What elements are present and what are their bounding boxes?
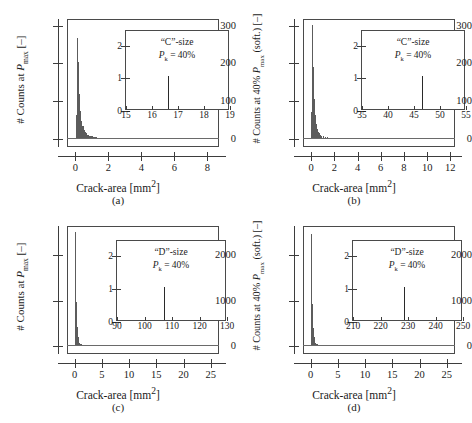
panel-c-x-tick xyxy=(102,359,103,368)
panel-a-y-tick xyxy=(53,26,63,27)
panel-b-inset-y-tick-label: 2 xyxy=(353,42,358,51)
panel-c-inset-x-tick-label: 100 xyxy=(137,322,151,331)
panel-b-inset-x-tick-label: 35 xyxy=(357,111,367,120)
panel-c-y-tick-label: 1000 xyxy=(187,296,236,306)
panel-c-x-tick-label: 25 xyxy=(206,370,217,380)
panel-d-inset-x-tick-label: 210 xyxy=(346,322,360,331)
panel-d-inset-x-tick-label: 240 xyxy=(428,322,442,331)
panel-b-x-axis-label: Crack-area [mm2] xyxy=(236,178,472,194)
panel-b-y-tick xyxy=(289,63,299,64)
panel-a-x-tick xyxy=(141,152,142,161)
panel-d-x-tick xyxy=(311,359,312,368)
panel-c-x-axis-label: Crack-area [mm2] xyxy=(0,385,236,401)
panel-a-caption: (a) xyxy=(0,194,236,206)
panel-a-y-tick-label: 200 xyxy=(187,58,236,68)
panel-d-x-tick xyxy=(447,359,448,368)
panel-b-inset-y-tick xyxy=(357,78,366,79)
panel-c-inset-y-tick xyxy=(112,256,121,257)
panel-b-x-tick-label: 6 xyxy=(378,163,383,173)
panel-b-x-tick-label: 0 xyxy=(308,163,313,173)
panel-a-y-tick xyxy=(53,63,63,64)
panel-b-x-tick-label: 8 xyxy=(401,163,406,173)
panel-d-y-tick xyxy=(289,301,299,302)
panel-a-inset-x-tick-label: 19 xyxy=(225,111,235,120)
panel-c-y-tick xyxy=(53,346,63,347)
panel-d-inset-x-tick-label: 250 xyxy=(456,322,470,331)
panel-c-inset-x-tick-label: 110 xyxy=(165,322,179,331)
panel-c-inset-y-tick xyxy=(112,289,121,290)
panel-a-inset-y-tick-label: 1 xyxy=(117,74,122,83)
panel-b-x-tick-label: 4 xyxy=(355,163,360,173)
panel-a-x-tick-label: 2 xyxy=(106,163,111,173)
panel-c-x-tick xyxy=(211,359,212,368)
panel-a-inset-x-tick-label: 18 xyxy=(199,111,209,120)
panel-b-x-tick-label: 10 xyxy=(422,163,433,173)
panel-d-x-tick-label: 0 xyxy=(308,370,313,380)
panel-b-inset-x-tick-label: 45 xyxy=(409,111,419,120)
panel-d-inset-x-tick-label: 220 xyxy=(373,322,387,331)
panel-a-y-tick xyxy=(53,101,63,102)
panel-d-y-axis xyxy=(294,226,295,354)
panel-b-inset-y-tick-label: 1 xyxy=(353,74,358,83)
panel-b-y-tick-label: 300 xyxy=(423,21,472,31)
panel-b-x-tick xyxy=(427,152,428,161)
panel-c-y-axis-label: # Counts at Pmax [–] xyxy=(14,212,29,362)
panel-a-inset-y-tick-label: 2 xyxy=(117,42,122,51)
panel-c-inset-y-tick-label: 2 xyxy=(108,252,113,261)
panel-b-y-tick-label: 0 xyxy=(423,134,472,144)
panel-b-y-tick-label: 100 xyxy=(423,96,472,106)
panel-d-x-tick xyxy=(420,359,421,368)
panel-c-x-tick xyxy=(184,359,185,368)
panel-b-y-tick-label: 200 xyxy=(423,58,472,68)
panel-a: # Counts at Pmax [–] Crack-area [mm2] “C… xyxy=(0,0,236,211)
panel-c-x-tick-label: 20 xyxy=(178,370,189,380)
panel-b-x-tick xyxy=(334,152,335,161)
panel-a-inset-x-tick-label: 17 xyxy=(173,111,183,120)
panel-b-y-axis xyxy=(294,19,295,147)
panel-c-x-tick-label: 10 xyxy=(124,370,135,380)
panel-b-caption: (b) xyxy=(236,194,472,206)
panel-d-inset-x-tick-label: 230 xyxy=(401,322,415,331)
panel-a-x-tick-label: 8 xyxy=(205,163,210,173)
panel-c-y-tick-label: 0 xyxy=(187,341,236,351)
panel-d-inset-spike xyxy=(404,287,405,320)
panel-b-x-tick xyxy=(404,152,405,161)
panel-b-y-tick xyxy=(289,101,299,102)
panel-c-inset-x-tick-label: 130 xyxy=(220,322,234,331)
panel-d-inset-y-tick xyxy=(348,256,357,257)
panel-a-y-axis xyxy=(58,19,59,147)
panel-c-inset-x-tick-label: 120 xyxy=(192,322,206,331)
panel-d-caption: (d) xyxy=(236,401,472,413)
panel-b-x-axis xyxy=(294,156,462,157)
panel-d-y-tick xyxy=(289,346,299,347)
panel-d-x-tick xyxy=(365,359,366,368)
panel-b-inset-x-tick-label: 40 xyxy=(383,111,393,120)
panel-a-x-tick-label: 0 xyxy=(73,163,78,173)
panel-d-x-tick xyxy=(392,359,393,368)
panel-a-y-axis-label: # Counts at Pmax [–] xyxy=(14,5,29,155)
panel-b-x-tick-label: 2 xyxy=(332,163,337,173)
panel-d-x-tick-label: 20 xyxy=(414,370,425,380)
panel-c: # Counts at Pmax [–] Crack-area [mm2] “D… xyxy=(0,207,236,418)
panel-c-x-tick-label: 15 xyxy=(151,370,162,380)
panel-c-x-axis xyxy=(58,363,226,364)
panel-d-y-tick xyxy=(289,255,299,256)
panel-b-inset-y-tick xyxy=(357,46,366,47)
panel-d-x-tick-label: 15 xyxy=(387,370,398,380)
panel-a-inset-x-tick-label: 15 xyxy=(121,111,131,120)
panel-c-inset-x-tick-label: 90 xyxy=(112,322,122,331)
panel-d-y-axis-label: # Counts at 40% Pmax (soft.) [–] xyxy=(251,207,264,365)
panel-a-x-tick-label: 4 xyxy=(139,163,144,173)
panel-b-x-tick xyxy=(358,152,359,161)
panel-b-x-tick-label: 12 xyxy=(445,163,456,173)
panel-a-y-tick-label: 0 xyxy=(187,134,236,144)
panel-a-inset-x-tick-label: 16 xyxy=(147,111,157,120)
panel-d-x-tick-label: 5 xyxy=(335,370,340,380)
panel-c-y-tick xyxy=(53,301,63,302)
panel-d: # Counts at 40% Pmax (soft.) [–] Crack-a… xyxy=(236,207,472,418)
panel-c-y-tick-label: 2000 xyxy=(187,250,236,260)
panel-a-y-tick-label: 100 xyxy=(187,96,236,106)
figure-multipanel-histograms: # Counts at Pmax [–] Crack-area [mm2] “C… xyxy=(0,0,472,423)
panel-a-x-tick-label: 6 xyxy=(172,163,177,173)
panel-c-y-tick xyxy=(53,255,63,256)
